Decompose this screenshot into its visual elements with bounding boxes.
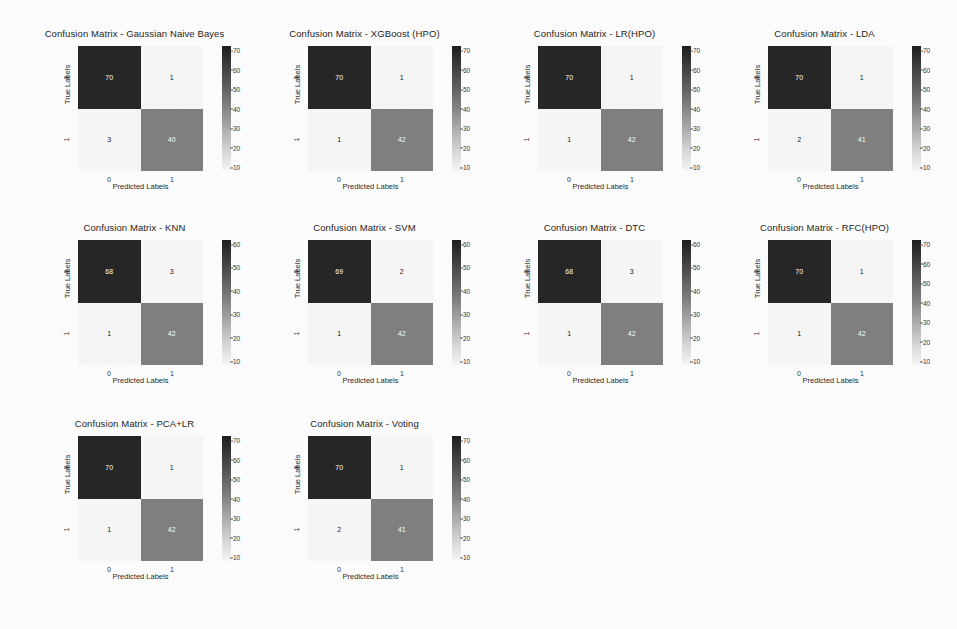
x-axis-label: Predicted Labels xyxy=(78,572,203,581)
matrix-cell-value: 1 xyxy=(567,330,571,337)
matrix-cell-value: 70 xyxy=(105,464,113,471)
panel-title: Confusion Matrix - SVM xyxy=(262,222,467,233)
matrix-cell-value: 1 xyxy=(797,330,801,337)
colorbar-tick-label: 70 xyxy=(923,47,930,54)
matrix-cell: 1 xyxy=(78,303,141,366)
matrix-cell-value: 68 xyxy=(565,268,573,275)
confusion-matrix-panel: Confusion Matrix - LDA7012410101True Lab… xyxy=(722,18,954,214)
colorbar-tick-label: 40 xyxy=(463,495,470,502)
colorbar-tick-label: 40 xyxy=(233,105,240,112)
confusion-matrix-figure-grid: Confusion Matrix - Gaussian Naive Bayes7… xyxy=(0,0,957,629)
colorbar-tick-label: 40 xyxy=(463,105,470,112)
matrix-cell-value: 1 xyxy=(400,464,404,471)
y-axis-label: True Labels xyxy=(63,259,72,298)
matrix-cell: 1 xyxy=(371,436,434,499)
colorbar-tick-label: 60 xyxy=(233,66,240,73)
matrix-cell: 41 xyxy=(831,109,894,172)
confusion-matrix-panel: Confusion Matrix - DTC6831420101True Lab… xyxy=(492,212,724,408)
matrix-cell: 41 xyxy=(371,499,434,562)
colorbar-tick-label: 20 xyxy=(233,144,240,151)
x-axis-label: Predicted Labels xyxy=(308,182,433,191)
colorbar-tick-label: 60 xyxy=(693,66,700,73)
y-axis-label: True Labels xyxy=(753,259,762,298)
y-tick-label: 1 xyxy=(753,138,760,142)
y-axis-label: True Labels xyxy=(293,455,302,494)
matrix-cell: 42 xyxy=(371,303,434,366)
colorbar-tick-label: 60 xyxy=(233,456,240,463)
confusion-matrix-panel: Confusion Matrix - XGBoost (HPO)70114201… xyxy=(262,18,494,214)
colorbar-gradient xyxy=(682,240,691,365)
colorbar-tick-label: 50 xyxy=(463,264,470,271)
colorbar-tick-label: 20 xyxy=(463,534,470,541)
panel-title: Confusion Matrix - LDA xyxy=(722,28,927,39)
colorbar-tick-label: 20 xyxy=(923,144,930,151)
matrix-cell-value: 42 xyxy=(168,526,176,533)
matrix-plot-area: 6921420101 xyxy=(308,240,433,365)
colorbar-tick-label: 50 xyxy=(923,86,930,93)
matrix-cell: 40 xyxy=(141,109,204,172)
matrix-plot-area: 7012410101 xyxy=(308,436,433,561)
colorbar-tick-label: 40 xyxy=(693,105,700,112)
matrix-plot-area: 7013400101 xyxy=(78,46,203,171)
colorbar-tick-label: 20 xyxy=(233,534,240,541)
colorbar-tick-label: 20 xyxy=(923,338,930,345)
colorbar-tick-label: 70 xyxy=(463,437,470,444)
y-axis-label: True Labels xyxy=(293,65,302,104)
matrix-cell-value: 2 xyxy=(400,268,404,275)
colorbar: 70605040302010 xyxy=(222,436,231,561)
matrix-cell-value: 70 xyxy=(105,74,113,81)
colorbar: 70605040302010 xyxy=(912,46,921,171)
matrix-cell-value: 1 xyxy=(860,268,864,275)
colorbar-gradient xyxy=(222,240,231,365)
matrix-cell: 2 xyxy=(371,240,434,303)
matrix-cell: 42 xyxy=(601,109,664,172)
colorbar: 70605040302010 xyxy=(452,436,461,561)
colorbar-tick-label: 50 xyxy=(463,86,470,93)
matrix-cell: 70 xyxy=(768,46,831,109)
matrix-cell-value: 1 xyxy=(107,330,111,337)
matrix-cell: 42 xyxy=(601,303,664,366)
colorbar-tick-label: 10 xyxy=(233,164,240,171)
y-tick-label: 1 xyxy=(753,332,760,336)
colorbar-gradient xyxy=(452,240,461,365)
matrix-cell-value: 3 xyxy=(107,136,111,143)
colorbar-tick-label: 70 xyxy=(233,437,240,444)
colorbar-tick-label: 30 xyxy=(463,311,470,318)
matrix-cell-value: 42 xyxy=(858,330,866,337)
matrix-cell: 3 xyxy=(141,240,204,303)
matrix-plot-area: 7011420101 xyxy=(768,240,893,365)
matrix-cell-value: 3 xyxy=(170,268,174,275)
colorbar-tick-label: 10 xyxy=(463,358,470,365)
y-tick-label: 1 xyxy=(63,138,70,142)
y-tick-label: 1 xyxy=(523,138,530,142)
colorbar-tick-label: 10 xyxy=(693,358,700,365)
colorbar-tick-label: 60 xyxy=(463,241,470,248)
x-axis-label: Predicted Labels xyxy=(768,376,893,385)
colorbar: 70605040302010 xyxy=(222,46,231,171)
x-axis-label: Predicted Labels xyxy=(768,182,893,191)
matrix-cell: 1 xyxy=(538,109,601,172)
matrix-cell-value: 40 xyxy=(168,136,176,143)
confusion-matrix-panel: Confusion Matrix - PCA+LR7011420101True … xyxy=(32,408,264,604)
colorbar-tick-label: 60 xyxy=(693,241,700,248)
matrix-cell-value: 1 xyxy=(630,74,634,81)
matrix-cell-value: 42 xyxy=(398,330,406,337)
colorbar: 70605040302010 xyxy=(912,240,921,365)
matrix-cell-value: 1 xyxy=(170,464,174,471)
x-axis-label: Predicted Labels xyxy=(78,376,203,385)
colorbar-tick-label: 40 xyxy=(693,287,700,294)
panel-title: Confusion Matrix - KNN xyxy=(32,222,237,233)
panel-title: Confusion Matrix - RFC(HPO) xyxy=(722,222,927,233)
matrix-cell-value: 1 xyxy=(860,74,864,81)
colorbar-tick-label: 20 xyxy=(463,334,470,341)
confusion-matrix-panel: Confusion Matrix - RFC(HPO)7011420101Tru… xyxy=(722,212,954,408)
panel-title: Confusion Matrix - Gaussian Naive Bayes xyxy=(32,28,237,39)
colorbar-tick-label: 50 xyxy=(233,476,240,483)
colorbar-tick-label: 70 xyxy=(233,47,240,54)
colorbar-tick-label: 10 xyxy=(923,358,930,365)
colorbar-tick-label: 50 xyxy=(233,264,240,271)
colorbar-tick-label: 60 xyxy=(463,456,470,463)
matrix-plot-area: 7011420101 xyxy=(308,46,433,171)
confusion-matrix-panel: Confusion Matrix - Voting7012410101True … xyxy=(262,408,494,604)
colorbar-tick-label: 30 xyxy=(463,125,470,132)
